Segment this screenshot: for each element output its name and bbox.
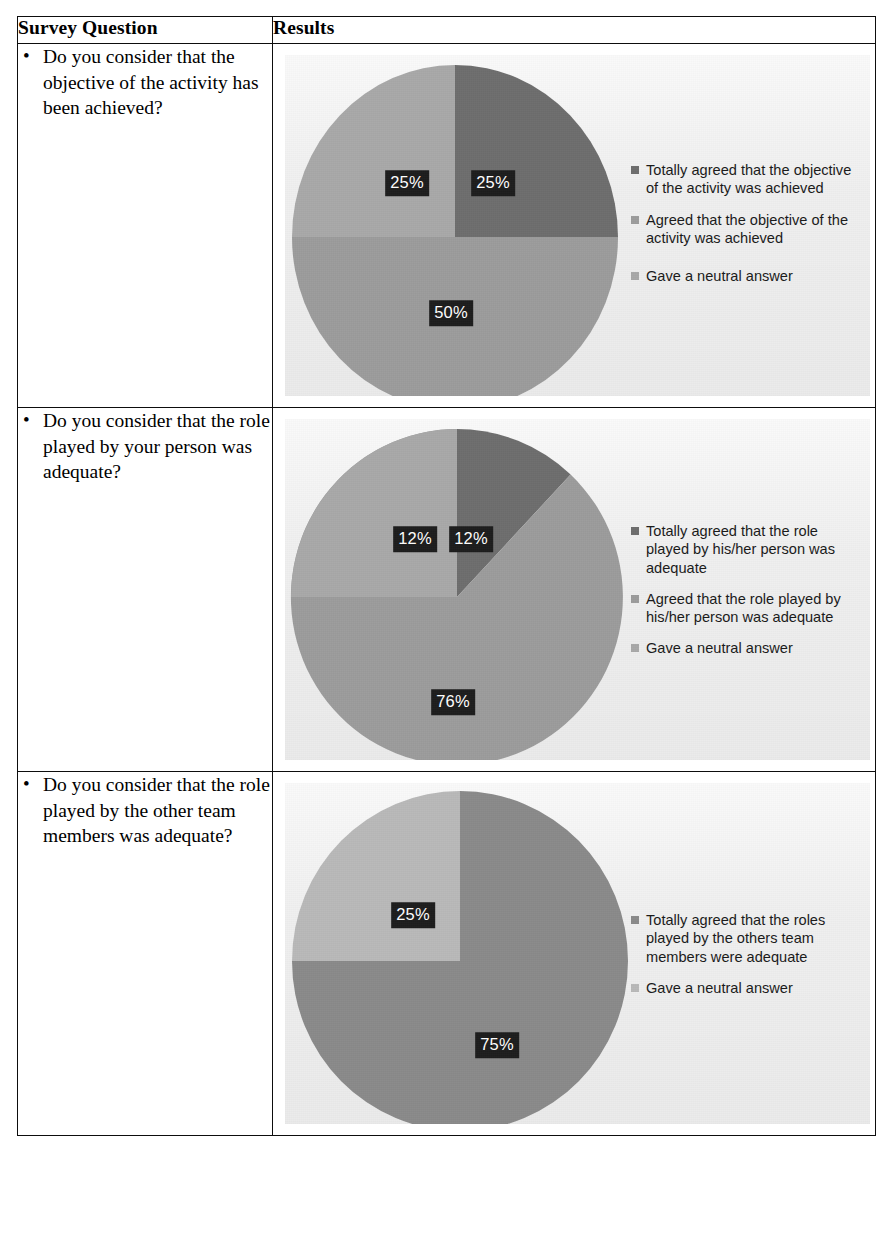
pie-slice-1-neutral bbox=[292, 65, 455, 237]
legend-item: Gave a neutral answer bbox=[630, 639, 862, 657]
table-row: • Do you consider that the role played b… bbox=[18, 772, 876, 1136]
legend-item: Totally agreed that the objective of the… bbox=[630, 161, 862, 198]
table-header-row: Survey Question Results bbox=[18, 17, 876, 44]
legend-3: Totally agreed that the roles played by … bbox=[630, 911, 862, 997]
slice-label: 12% bbox=[449, 526, 493, 552]
column-header-survey-question: Survey Question bbox=[18, 17, 273, 44]
legend-label: Gave a neutral answer bbox=[646, 268, 793, 284]
pie-plot-area-2: 12% 12% 76% bbox=[285, 419, 645, 760]
pie-chart-1: 25% 25% 50% Totally agreed that the obje… bbox=[285, 55, 870, 396]
results-cell-3: 75% 25% Totally agreed that the roles pl… bbox=[273, 772, 876, 1136]
question-text: Do you consider that the role played by … bbox=[43, 774, 270, 846]
pie-plot-area-3: 75% 25% bbox=[285, 783, 645, 1124]
pie-slice-2-neutral bbox=[291, 429, 457, 597]
table-row: • Do you consider that the objective of … bbox=[18, 44, 876, 408]
pie-chart-3: 75% 25% Totally agreed that the roles pl… bbox=[285, 783, 870, 1124]
slice-label: 25% bbox=[391, 902, 435, 928]
legend-label: Gave a neutral answer bbox=[646, 640, 793, 656]
slice-label: 25% bbox=[385, 170, 429, 196]
pie-svg-3 bbox=[285, 783, 645, 1124]
legend-swatch-icon bbox=[631, 166, 639, 174]
legend-swatch-icon bbox=[631, 272, 639, 280]
pie-slice-3-neutral bbox=[292, 791, 460, 961]
question-cell-2: • Do you consider that the role played b… bbox=[18, 408, 273, 772]
question-list-3: • Do you consider that the role played b… bbox=[18, 772, 272, 849]
document-page: Survey Question Results • Do you conside… bbox=[0, 0, 893, 1241]
results-cell-2: 12% 12% 76% Totally agreed that the role… bbox=[273, 408, 876, 772]
pie-chart-2: 12% 12% 76% Totally agreed that the role… bbox=[285, 419, 870, 760]
legend-label: Totally agreed that the role played by h… bbox=[646, 523, 835, 576]
results-cell-1: 25% 25% 50% Totally agreed that the obje… bbox=[273, 44, 876, 408]
question-text: Do you consider that the role played by … bbox=[43, 410, 270, 482]
list-item: • Do you consider that the objective of … bbox=[18, 44, 272, 121]
slice-label: 12% bbox=[393, 526, 437, 552]
legend-swatch-icon bbox=[631, 527, 639, 535]
list-item: • Do you consider that the role played b… bbox=[18, 408, 272, 485]
pie-slice-1-totally-agreed bbox=[455, 65, 618, 237]
column-header-results: Results bbox=[273, 17, 876, 44]
pie-svg-1 bbox=[285, 55, 645, 396]
legend-2: Totally agreed that the role played by h… bbox=[630, 522, 862, 658]
slice-label: 75% bbox=[475, 1032, 519, 1058]
legend-item: Gave a neutral answer bbox=[630, 979, 862, 997]
question-list-1: • Do you consider that the objective of … bbox=[18, 44, 272, 121]
question-cell-3: • Do you consider that the role played b… bbox=[18, 772, 273, 1136]
legend-1: Totally agreed that the objective of the… bbox=[630, 161, 862, 285]
question-cell-1: • Do you consider that the objective of … bbox=[18, 44, 273, 408]
legend-swatch-icon bbox=[631, 984, 639, 992]
slice-label: 25% bbox=[471, 170, 515, 196]
legend-swatch-icon bbox=[631, 916, 639, 924]
legend-item: Totally agreed that the role played by h… bbox=[630, 522, 862, 577]
legend-label: Agreed that the role played by his/her p… bbox=[646, 591, 841, 625]
legend-swatch-icon bbox=[631, 644, 639, 652]
pie-plot-area-1: 25% 25% 50% bbox=[285, 55, 645, 396]
legend-swatch-icon bbox=[631, 216, 639, 224]
bullet-icon: • bbox=[23, 407, 30, 433]
legend-item: Agreed that the role played by his/her p… bbox=[630, 590, 862, 627]
legend-item: Gave a neutral answer bbox=[630, 267, 862, 285]
table-row: • Do you consider that the role played b… bbox=[18, 408, 876, 772]
legend-label: Gave a neutral answer bbox=[646, 980, 793, 996]
slice-label: 76% bbox=[431, 689, 475, 715]
list-item: • Do you consider that the role played b… bbox=[18, 772, 272, 849]
slice-label: 50% bbox=[429, 300, 473, 326]
bullet-icon: • bbox=[23, 771, 30, 797]
legend-swatch-icon bbox=[631, 595, 639, 603]
legend-item: Agreed that the objective of the activit… bbox=[630, 211, 862, 248]
question-text: Do you consider that the objective of th… bbox=[43, 46, 259, 118]
survey-results-table: Survey Question Results • Do you conside… bbox=[17, 16, 876, 1136]
legend-label: Agreed that the objective of the activit… bbox=[646, 212, 848, 246]
question-list-2: • Do you consider that the role played b… bbox=[18, 408, 272, 485]
legend-label: Totally agreed that the objective of the… bbox=[646, 162, 851, 196]
legend-item: Totally agreed that the roles played by … bbox=[630, 911, 862, 966]
legend-label: Totally agreed that the roles played by … bbox=[646, 912, 825, 965]
bullet-icon: • bbox=[23, 43, 30, 69]
